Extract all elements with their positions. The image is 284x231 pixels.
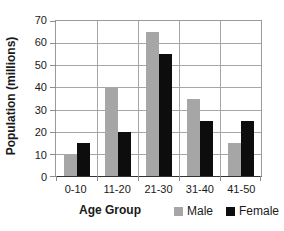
bar-group-11-20	[97, 21, 138, 176]
bar-group-41-50	[220, 21, 261, 176]
legend: MaleFemale	[174, 204, 279, 218]
bar-female-21-30	[159, 54, 172, 176]
bar-male-21-30	[146, 32, 159, 176]
legend-swatch-female	[226, 207, 235, 216]
x-axis-labels: 0-1011-2021-3031-4041-50	[55, 183, 262, 195]
bar-male-41-50	[228, 143, 241, 176]
bar-group-31-40	[179, 21, 220, 176]
x-tick-mark	[138, 176, 139, 181]
x-tick-mark	[179, 176, 180, 181]
x-tick-label: 41-50	[221, 183, 262, 195]
bar-groups	[56, 21, 261, 176]
x-tick-mark	[220, 176, 221, 181]
x-tick-label: 31-40	[179, 183, 220, 195]
y-tick-label: 40	[35, 82, 47, 93]
x-tick-mark	[56, 176, 57, 181]
population-bar-chart: Population (millions) 010203040506070 0-…	[0, 0, 284, 231]
bar-female-11-20	[118, 132, 131, 176]
bar-male-0-10	[64, 154, 77, 176]
bar-group-21-30	[138, 21, 179, 176]
bar-female-31-40	[200, 121, 213, 176]
bar-female-41-50	[241, 121, 254, 176]
x-axis-title: Age Group	[58, 203, 162, 217]
y-tick-label: 60	[35, 37, 47, 48]
y-tick-label: 50	[35, 59, 47, 70]
x-tick-mark	[97, 176, 98, 181]
legend-swatch-male	[174, 207, 183, 216]
bar-male-11-20	[105, 87, 118, 176]
bar-male-31-40	[187, 99, 200, 177]
legend-label: Male	[187, 204, 213, 218]
y-tick-label: 30	[35, 104, 47, 115]
bar-group-0-10	[56, 21, 97, 176]
y-tick-label: 20	[35, 127, 47, 138]
y-tick-label: 0	[41, 172, 47, 183]
y-tick-label: 70	[35, 15, 47, 26]
x-tick-label: 21-30	[138, 183, 179, 195]
x-tick-mark	[260, 176, 261, 181]
y-axis-labels: 010203040506070	[0, 20, 47, 177]
x-tick-label: 0-10	[55, 183, 96, 195]
legend-item-male: Male	[174, 204, 213, 218]
y-tick-label: 10	[35, 149, 47, 160]
legend-label: Female	[239, 204, 279, 218]
bar-female-0-10	[77, 143, 90, 176]
legend-item-female: Female	[226, 204, 279, 218]
x-tick-label: 11-20	[96, 183, 137, 195]
plot-area	[55, 20, 262, 177]
